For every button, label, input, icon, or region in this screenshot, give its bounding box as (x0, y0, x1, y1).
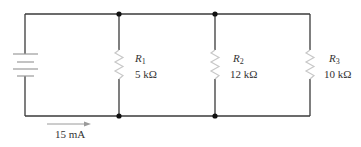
junction-dot-top-1 (116, 11, 121, 16)
resistor-r2-label: R2 12 kΩ (230, 52, 257, 80)
junction-dot-bottom-2 (212, 113, 217, 118)
circuit-diagram: R1 5 kΩ R2 12 kΩ R3 10 kΩ 15 mA (0, 0, 361, 147)
total-current-label: 15 mA (55, 128, 85, 140)
circuit-schematic (0, 0, 361, 147)
resistor-r1-icon (115, 50, 123, 79)
resistor-r2-value: 12 kΩ (230, 68, 257, 80)
resistor-r3-name: R3 (324, 52, 351, 68)
junction-dots (116, 11, 217, 118)
wires (25, 14, 310, 116)
resistor-r1-value: 5 kΩ (135, 68, 157, 80)
current-arrow-icon (47, 122, 91, 127)
resistor-r3-value: 10 kΩ (324, 68, 351, 80)
resistor-r1-name: R1 (135, 52, 157, 68)
resistor-r2-icon (211, 50, 219, 79)
resistor-r3-icon (306, 50, 314, 79)
junction-dot-bottom-1 (116, 113, 121, 118)
resistor-r1-label: R1 5 kΩ (135, 52, 157, 80)
battery-icon (13, 54, 38, 76)
resistor-r3-label: R3 10 kΩ (324, 52, 351, 80)
resistor-r2-name: R2 (230, 52, 257, 68)
junction-dot-top-2 (212, 11, 217, 16)
